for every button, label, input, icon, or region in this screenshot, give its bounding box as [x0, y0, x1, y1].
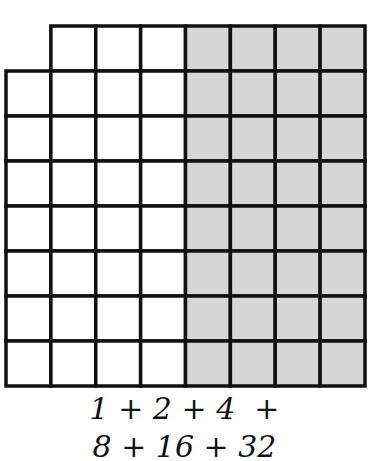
white-grid-cell	[6, 341, 51, 386]
shaded-grid-cell	[320, 206, 365, 251]
white-grid-cell	[96, 71, 141, 116]
shaded-grid-cell	[320, 71, 365, 116]
white-grid-cell	[6, 116, 51, 161]
white-grid-cell	[96, 296, 141, 341]
shaded-grid-cell	[186, 206, 231, 251]
shaded-grid-cell	[230, 116, 275, 161]
shaded-grid-cell	[320, 296, 365, 341]
shaded-grid-cell	[230, 206, 275, 251]
shaded-grid-cell	[275, 26, 320, 71]
white-grid-cell	[51, 116, 96, 161]
shaded-grid-cell	[186, 26, 231, 71]
white-grid-cell	[96, 161, 141, 206]
white-grid-cell	[96, 341, 141, 386]
white-grid-cell	[51, 161, 96, 206]
shaded-grid-cell	[275, 161, 320, 206]
shaded-grid-cell	[320, 341, 365, 386]
shaded-grid-cell	[230, 26, 275, 71]
shaded-grid-cell	[275, 251, 320, 296]
white-grid-cell	[51, 71, 96, 116]
white-grid-cell	[6, 71, 51, 116]
white-grid-cell	[141, 116, 186, 161]
shaded-grid-cell	[230, 161, 275, 206]
shaded-grid-cell	[275, 296, 320, 341]
shaded-grid-cell	[320, 116, 365, 161]
shaded-grid-cell	[275, 341, 320, 386]
shaded-grid-cell	[186, 251, 231, 296]
white-grid-cell	[6, 161, 51, 206]
white-grid-cell	[6, 296, 51, 341]
shaded-grid-cell	[275, 71, 320, 116]
white-grid-cell	[51, 341, 96, 386]
shaded-grid-cell	[230, 341, 275, 386]
shaded-grid-cell	[230, 71, 275, 116]
shaded-grid-cell	[230, 251, 275, 296]
white-grid-cell	[141, 206, 186, 251]
caption-line-1: 1 + 2 + 4 +	[0, 394, 369, 424]
white-grid-cell	[141, 161, 186, 206]
white-grid-cell	[141, 71, 186, 116]
white-grid-cell	[141, 26, 186, 71]
shaded-grid-cell	[186, 116, 231, 161]
shaded-grid-cell	[320, 26, 365, 71]
white-grid-cell	[51, 251, 96, 296]
white-grid-cell	[96, 251, 141, 296]
white-grid-cell	[51, 296, 96, 341]
white-grid-cell	[51, 26, 96, 71]
white-grid-cell	[51, 206, 96, 251]
shaded-grid-cell	[275, 206, 320, 251]
white-grid-cell	[141, 341, 186, 386]
caption-line-2: 8 + 16 + 32	[0, 432, 369, 461]
shaded-grid-cell	[320, 161, 365, 206]
white-grid-cell	[96, 206, 141, 251]
white-grid-cell	[96, 26, 141, 71]
shaded-grid-cell	[275, 116, 320, 161]
shaded-grid-cell	[186, 341, 231, 386]
white-grid-cell	[96, 116, 141, 161]
white-grid-cell	[6, 206, 51, 251]
white-grid-cell	[6, 251, 51, 296]
shaded-grid-cell	[186, 71, 231, 116]
shaded-grid-cell	[320, 251, 365, 296]
shaded-grid-cell	[186, 296, 231, 341]
shaded-grid-cell	[230, 296, 275, 341]
white-grid-cell	[141, 296, 186, 341]
white-grid-cell	[141, 251, 186, 296]
shaded-grid-cell	[186, 161, 231, 206]
